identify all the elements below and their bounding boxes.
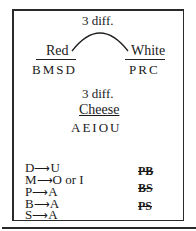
crossed-out-pair: BS [138, 181, 153, 196]
white-letters: PRC [129, 62, 160, 78]
group-label-red: Red [46, 43, 69, 59]
cheese-letters: AEIOU [71, 120, 121, 136]
middle-label: 3 diff. [82, 86, 114, 102]
rule-row: S⟶A [25, 207, 58, 223]
red-underline [36, 59, 76, 60]
rule-to: A [48, 207, 57, 222]
rule-from: S [25, 207, 32, 222]
white-underline [125, 59, 165, 60]
cheese-label: Cheese [79, 102, 119, 118]
arrow-icon: ⟶ [32, 209, 48, 222]
group-label-white: White [131, 43, 165, 59]
crossed-out-pair: PS [138, 199, 152, 214]
connector-arc [70, 25, 130, 53]
red-letters: BMSD [32, 62, 77, 78]
bottom-divider [2, 227, 196, 229]
crossed-out-pair: PB [138, 164, 153, 179]
